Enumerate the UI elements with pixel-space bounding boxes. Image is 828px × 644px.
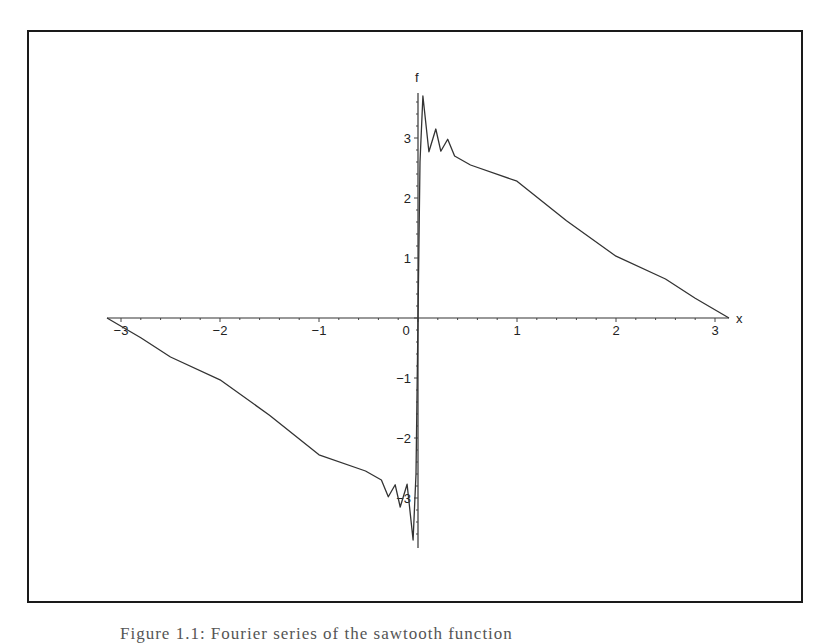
x-tick-label: −2	[213, 323, 228, 338]
y-tick-label: −2	[396, 431, 411, 446]
y-axis-label: f	[415, 70, 419, 85]
y-tick-label: 2	[404, 191, 411, 206]
x-tick-label: 1	[513, 323, 520, 338]
x-tick-label: 2	[612, 323, 619, 338]
y-tick-label: 1	[404, 251, 411, 266]
y-tick-label: 3	[404, 131, 411, 146]
x-tick-label: −3	[114, 323, 129, 338]
x-axis-label: x	[736, 311, 743, 326]
figure-caption: Figure 1.1: Fourier series of the sawtoo…	[120, 624, 720, 644]
y-tick-label: −1	[396, 371, 411, 386]
x-tick-label: −1	[312, 323, 327, 338]
x-tick-label: 0	[402, 323, 409, 338]
x-tick-label: 3	[711, 323, 718, 338]
